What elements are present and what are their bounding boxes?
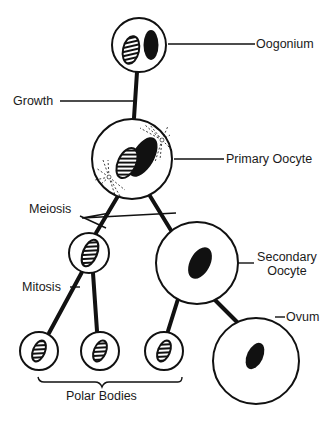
polar-body-1 xyxy=(20,332,58,370)
label-primary-oocyte: Primary Oocyte xyxy=(226,152,312,166)
oogonium-cell xyxy=(112,18,166,72)
primary-oocyte-cell xyxy=(92,119,172,199)
label-growth: Growth xyxy=(13,94,53,108)
label-mitosis: Mitosis xyxy=(22,280,61,294)
label-polar-bodies: Polar Bodies xyxy=(66,389,137,403)
label-ovum: Ovum xyxy=(286,310,319,324)
polar-body-2 xyxy=(81,332,119,370)
polar-body-3 xyxy=(145,332,183,370)
label-oogonium: Oogonium xyxy=(256,37,314,51)
first-polar-body-cell xyxy=(69,233,109,273)
label-meiosis: Meiosis xyxy=(29,202,71,216)
ovum-cell xyxy=(213,318,299,404)
label-secondary-oocyte-line1: Secondary xyxy=(252,250,322,264)
secondary-oocyte-cell xyxy=(156,222,238,304)
label-secondary-oocyte-line2: Oocyte xyxy=(252,264,322,278)
